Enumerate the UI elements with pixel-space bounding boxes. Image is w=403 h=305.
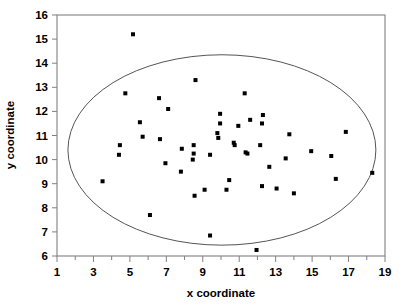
data-points-group: [101, 32, 375, 252]
x-tick-label: 19: [379, 266, 392, 278]
data-point: [193, 194, 197, 198]
y-tick-label: 16: [35, 9, 48, 21]
data-point: [309, 149, 313, 153]
data-point: [224, 188, 228, 192]
plot-area-border: [57, 15, 385, 256]
x-tick-label: 5: [127, 266, 134, 278]
x-tick-label: 13: [269, 266, 282, 278]
data-point: [344, 130, 348, 134]
data-point: [203, 188, 207, 192]
data-point: [123, 91, 127, 95]
data-point: [208, 234, 212, 238]
data-point: [118, 143, 122, 147]
data-point: [101, 179, 105, 183]
data-point: [148, 213, 152, 217]
data-point: [329, 154, 333, 158]
data-point: [163, 161, 167, 165]
plot-canvas: 678910111213141516 135791113151719 x coo…: [0, 0, 403, 305]
y-tick-label: 7: [42, 226, 48, 238]
data-point: [287, 132, 291, 136]
data-point: [215, 131, 219, 135]
y-tick-label: 10: [35, 154, 48, 166]
data-point: [138, 120, 142, 124]
data-point: [243, 91, 247, 95]
x-tick-label: 17: [342, 266, 355, 278]
y-axis-tick-labels: 678910111213141516: [35, 9, 48, 262]
y-tick-label: 11: [36, 130, 49, 142]
tolerance-ellipse-outline: [68, 55, 376, 245]
data-point: [267, 165, 271, 169]
y-axis-ticks: [52, 15, 57, 256]
data-point: [157, 96, 161, 100]
x-tick-label: 11: [233, 266, 246, 278]
data-point: [334, 177, 338, 181]
plot-frame: [57, 15, 385, 256]
data-point: [193, 78, 197, 82]
x-tick-label: 3: [90, 266, 96, 278]
data-point: [179, 170, 183, 174]
data-point: [260, 121, 264, 125]
data-point: [141, 135, 145, 139]
data-point: [370, 171, 374, 175]
x-tick-label: 9: [200, 266, 206, 278]
x-tick-label: 1: [54, 266, 61, 278]
x-axis-title: x coordinate: [187, 287, 255, 299]
data-point: [258, 143, 262, 147]
data-point: [292, 191, 296, 195]
data-point: [192, 152, 196, 156]
data-point: [191, 158, 195, 162]
data-point: [275, 187, 279, 191]
data-point: [261, 113, 265, 117]
data-point: [208, 153, 212, 157]
x-tick-label: 7: [163, 266, 169, 278]
data-point: [158, 137, 162, 141]
data-point: [227, 178, 231, 182]
x-axis-ticks: [57, 256, 385, 262]
data-point: [245, 152, 249, 156]
data-point: [284, 156, 288, 160]
y-tick-label: 6: [42, 250, 48, 262]
x-axis-tick-labels: 135791113151719: [54, 266, 392, 278]
data-point: [248, 118, 252, 122]
y-tick-label: 12: [35, 105, 48, 117]
data-point: [218, 121, 222, 125]
y-tick-label: 13: [35, 81, 48, 93]
data-point: [218, 112, 222, 116]
y-axis-title: y coordinate: [4, 101, 16, 169]
y-tick-label: 15: [35, 33, 48, 45]
data-point: [192, 143, 196, 147]
data-point: [131, 32, 135, 36]
data-point: [233, 143, 237, 147]
y-tick-label: 8: [42, 202, 49, 214]
data-point: [117, 153, 121, 157]
data-point: [236, 124, 240, 128]
x-tick-label: 15: [306, 266, 319, 278]
y-tick-label: 14: [35, 57, 48, 69]
tolerance-ellipse: [68, 55, 376, 245]
data-point: [216, 136, 220, 140]
data-point: [166, 107, 170, 111]
data-point: [180, 147, 184, 151]
y-tick-label: 9: [42, 178, 48, 190]
data-point: [255, 248, 259, 252]
data-point: [260, 184, 264, 188]
scatter-plot-figure: 678910111213141516 135791113151719 x coo…: [0, 0, 403, 305]
